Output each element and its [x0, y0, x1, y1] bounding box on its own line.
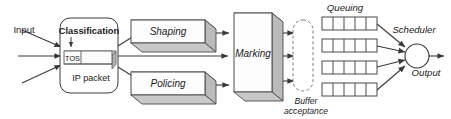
marking-side-face	[272, 13, 283, 101]
marking-box[interactable]: Marking	[234, 13, 283, 101]
shaping-label: Shaping	[150, 26, 187, 37]
shaping-bottom-face	[131, 43, 216, 52]
queue-row-1[interactable]	[322, 17, 377, 30]
diagram-canvas: Input Classification TOS IP packet	[0, 0, 451, 119]
scheduler-node[interactable]	[405, 44, 429, 68]
input-label: Input	[13, 24, 34, 35]
shaping-box[interactable]: Shaping	[131, 20, 216, 52]
classification-box[interactable]: Classification TOS IP packet	[59, 18, 120, 93]
ip-packet-label: IP packet	[72, 73, 110, 83]
queuing-label: Queuing	[327, 2, 364, 13]
queue-3-outline	[322, 61, 377, 74]
marking-output-arrows	[283, 33, 294, 81]
tos-label: TOS	[65, 54, 80, 63]
dashed-stadium-icon	[293, 20, 313, 91]
queue-2-outline	[322, 39, 377, 52]
policing-box[interactable]: Policing	[131, 72, 216, 104]
queue-row-2[interactable]	[322, 39, 377, 52]
queue-4-outline	[322, 83, 377, 96]
arrow-queue2-scheduler	[377, 46, 405, 52]
arrow-queue4-scheduler	[377, 66, 405, 90]
marking-label: Marking	[235, 48, 271, 59]
buffer-label-line2: acceptance	[284, 106, 328, 116]
input-arrows-group	[18, 30, 61, 83]
queue-1-outline	[322, 17, 377, 30]
queue-row-4[interactable]	[322, 83, 377, 96]
scheduler-label: Scheduler	[392, 24, 436, 35]
output-label: Output	[412, 67, 441, 78]
buffer-label-line1: Buffer	[295, 96, 319, 106]
buffer-acceptance-shape[interactable]	[293, 20, 313, 91]
input-arrow-bottom	[22, 65, 61, 83]
pre-marking-arrows	[216, 33, 229, 85]
arrow-queue3-scheduler	[377, 60, 405, 67]
qos-pipeline-svg: Input Classification TOS IP packet	[0, 0, 451, 119]
policing-bottom-face	[131, 95, 216, 104]
policing-label: Policing	[150, 78, 185, 89]
queue-row-3[interactable]	[322, 61, 377, 74]
circle-node-icon	[405, 44, 429, 68]
classification-label: Classification	[59, 26, 120, 36]
